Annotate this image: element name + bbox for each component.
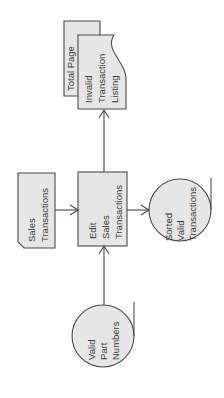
flowchart: Total Page Invalid Transaction Listing S… [0,0,224,398]
total-page-label: Total Page [65,46,76,91]
